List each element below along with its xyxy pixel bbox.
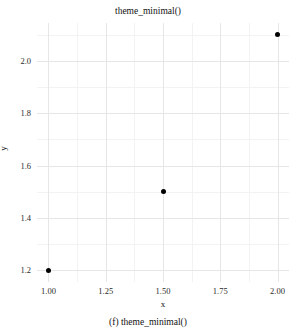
gridline-major-horizontal: [37, 113, 289, 114]
y-tick-label: 1.8: [0, 108, 31, 118]
y-tick-label: 1.2: [0, 265, 31, 275]
data-point: [46, 268, 51, 273]
data-point: [161, 189, 166, 194]
y-tick-label: 2.0: [0, 56, 31, 66]
y-tick-label: 1.6: [0, 161, 31, 171]
x-tick-label: 1.75: [200, 286, 240, 296]
gridline-major-horizontal: [37, 61, 289, 62]
plot-panel: [37, 23, 289, 282]
x-tick-label: 1.00: [28, 286, 68, 296]
y-tick-label: 1.4: [0, 213, 31, 223]
gridline-major-horizontal: [37, 166, 289, 167]
gridline-major-horizontal: [37, 270, 289, 271]
x-tick-label: 2.00: [258, 286, 296, 296]
x-tick-label: 1.50: [143, 286, 183, 296]
figure-container: theme_minimal() 1.001.251.501.752.00 1.2…: [0, 0, 296, 335]
x-axis-title: x: [37, 299, 289, 310]
figure-caption: (f) theme_minimal(): [0, 316, 296, 328]
x-tick-label: 1.25: [86, 286, 126, 296]
chart-title: theme_minimal(): [0, 5, 296, 17]
y-axis-title: y: [0, 146, 9, 151]
data-point: [275, 32, 280, 37]
gridline-major-horizontal: [37, 218, 289, 219]
